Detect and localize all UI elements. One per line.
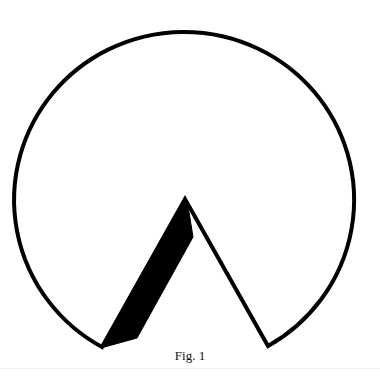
divider	[0, 368, 380, 369]
circle-wedge-diagram	[0, 0, 380, 382]
circle-outline	[14, 32, 354, 347]
figure-caption: Fig. 1	[0, 348, 380, 364]
figure-canvas: Fig. 1	[0, 0, 380, 382]
black-wedge	[101, 198, 193, 348]
